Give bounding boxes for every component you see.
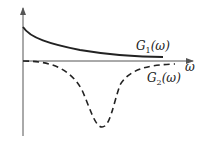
g1-label: G1(ω) <box>136 39 170 55</box>
omega-axis-label: ω <box>185 60 195 74</box>
diagram: G1(ω) G2(ω) ω <box>0 0 204 143</box>
g2-label: G2(ω) <box>147 71 181 87</box>
